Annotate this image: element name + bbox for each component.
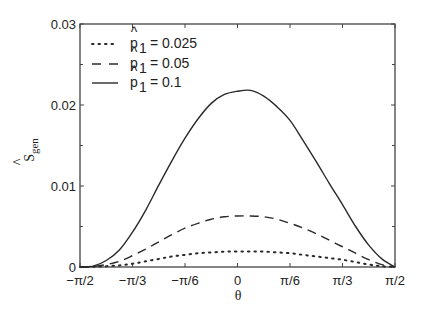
legend-subscript: 1 [139, 40, 147, 56]
x-tick-label: 0 [234, 273, 241, 288]
chart: −π/2−π/3−π/60π/6π/3π/200.010.020.03 ^p1=… [0, 0, 423, 325]
legend-symbol: p [130, 74, 138, 90]
y-tick-label: 0.03 [51, 17, 76, 32]
x-tick-label: π/3 [333, 273, 353, 288]
x-tick-label: −π/6 [171, 273, 198, 288]
legend-subscript: 1 [139, 60, 147, 76]
y-label-hat: ^ [11, 158, 26, 165]
y-tick-label: 0.01 [51, 179, 76, 194]
legend-subscript: 1 [139, 79, 147, 95]
x-tick-label: −π/3 [119, 273, 146, 288]
legend-label: = 0.025 [150, 35, 197, 51]
x-tick-label: −π/2 [66, 273, 93, 288]
y-tick-label: 0.02 [51, 98, 76, 113]
svg-text:θ: θ [235, 288, 242, 303]
legend-label: = 0.05 [150, 55, 190, 71]
x-tick-label: π/6 [280, 273, 300, 288]
x-axis-label: θ [235, 288, 242, 303]
legend-label: = 0.1 [150, 74, 182, 90]
x-tick-label: π/2 [385, 273, 405, 288]
y-label-subscript: gen [28, 138, 40, 154]
y-tick-label: 0 [69, 260, 76, 275]
